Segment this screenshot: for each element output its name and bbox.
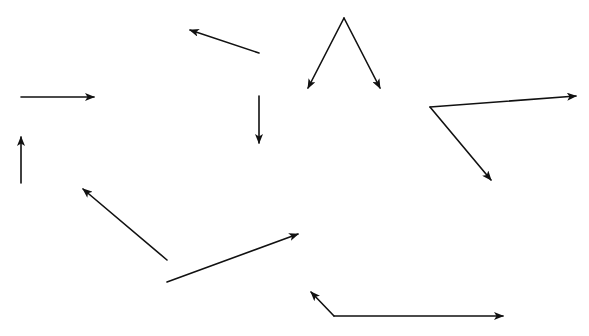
arrow-icon — [167, 234, 298, 282]
arrow-group — [21, 18, 576, 316]
arrow-icon — [311, 292, 334, 316]
arrow-icon — [190, 30, 259, 53]
arrow-icon — [430, 107, 491, 180]
arrow-icon — [308, 18, 344, 88]
arrow-icon — [344, 18, 380, 88]
vector-diagram — [0, 0, 589, 336]
arrow-icon — [83, 189, 167, 260]
arrow-icon — [430, 96, 576, 107]
